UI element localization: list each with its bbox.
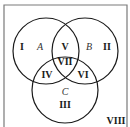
region-label-iv: IV: [41, 69, 53, 80]
region-label-vi: VI: [77, 69, 88, 80]
set-label-a: A: [36, 41, 44, 52]
set-label-c: C: [62, 86, 69, 97]
region-label-viii: VIII: [107, 115, 126, 126]
region-label-vii: VII: [57, 56, 72, 67]
region-label-ii: II: [103, 41, 111, 52]
region-label-v: V: [61, 41, 69, 52]
venn-diagram: A B C I II III IV V VI VII VIII: [0, 0, 130, 127]
region-label-i: I: [20, 41, 24, 52]
region-label-iii: III: [59, 99, 71, 110]
set-label-b: B: [86, 41, 92, 52]
